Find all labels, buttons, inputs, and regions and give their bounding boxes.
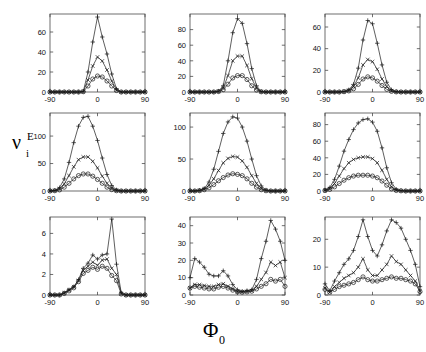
data-point-cross	[352, 271, 356, 275]
x-tick-label: 0	[235, 95, 239, 104]
subplot-r2c3: 020406080-90090	[313, 113, 425, 203]
series-circle	[188, 277, 287, 294]
series-plus	[323, 18, 422, 94]
data-point-cross	[375, 161, 379, 165]
data-point-cross	[110, 79, 114, 83]
data-point-plus	[212, 167, 216, 171]
x-axis-title-subscript: 0	[219, 333, 225, 347]
data-point-cross	[96, 55, 100, 59]
series-plus	[188, 218, 287, 293]
y-tick-label: 50	[38, 159, 46, 168]
data-point-cross	[356, 76, 360, 80]
data-point-plus	[95, 138, 99, 142]
data-point-plus	[72, 140, 76, 144]
data-point-cross	[259, 278, 263, 282]
data-point-plus	[380, 243, 384, 247]
plot-frame	[325, 113, 420, 191]
data-point-cross	[86, 78, 90, 82]
y-tick-label: 6	[42, 229, 46, 238]
data-point-plus	[361, 218, 365, 222]
data-point-plus	[337, 164, 341, 168]
data-point-plus	[361, 38, 365, 42]
plot-frame	[50, 14, 145, 92]
data-point-plus	[283, 258, 287, 262]
data-point-cross	[352, 158, 356, 162]
data-point-cross	[264, 271, 268, 275]
subplot-r1c3: 0204060-90090	[313, 14, 425, 104]
y-tick-label: 80	[178, 25, 186, 34]
data-point-cross	[385, 178, 389, 182]
x-tick-label: -90	[185, 194, 196, 203]
data-point-plus	[366, 117, 370, 121]
data-point-cross	[371, 157, 375, 161]
data-point-cross	[269, 260, 273, 264]
data-point-cross	[366, 58, 370, 62]
data-point-cross	[366, 268, 370, 272]
x-axis-title: Φ 0	[203, 318, 225, 347]
x-tick-label: -90	[185, 298, 196, 307]
series-line	[50, 266, 145, 295]
y-tick-label: 20	[178, 256, 186, 265]
data-point-plus	[81, 115, 85, 119]
data-point-cross	[250, 77, 254, 81]
data-point-cross	[105, 182, 109, 186]
series-line	[50, 57, 145, 92]
x-tick-label: 0	[95, 298, 99, 307]
data-point-plus	[404, 237, 408, 241]
x-tick-label: -90	[45, 95, 56, 104]
y-tick-label: 50	[178, 155, 186, 164]
plot-frame	[50, 217, 145, 295]
data-point-cross	[240, 159, 244, 163]
x-tick-label: 90	[141, 95, 149, 104]
series-plus	[188, 16, 287, 94]
data-point-plus	[356, 121, 360, 125]
data-point-plus	[67, 160, 71, 164]
data-point-cross	[96, 166, 100, 170]
plot-frame	[190, 113, 285, 191]
series-cross	[48, 257, 147, 297]
y-tick-label: 40	[178, 57, 186, 66]
y-tick-label: 20	[38, 68, 46, 77]
series-line	[50, 157, 145, 191]
data-point-plus	[62, 177, 66, 181]
data-point-cross	[385, 263, 389, 267]
x-tick-label: -90	[320, 95, 331, 104]
data-point-plus	[212, 274, 216, 278]
data-point-cross	[342, 167, 346, 171]
y-tick-label: 40	[38, 48, 46, 57]
y-tick-label: 10	[178, 273, 186, 282]
data-point-plus	[366, 234, 370, 238]
figure-root: 0204060-90090020406080-900900204060-9009…	[0, 0, 426, 352]
data-point-cross	[250, 174, 254, 178]
y-tick-label: 4	[42, 250, 46, 259]
series-line	[325, 119, 420, 191]
plot-frame	[190, 14, 285, 92]
data-point-cross	[337, 281, 341, 285]
series-cross	[188, 54, 287, 93]
subplot-r3c1: 0246-90090	[42, 217, 149, 307]
data-point-plus	[370, 120, 374, 124]
data-point-plus	[370, 22, 374, 26]
x-tick-label: 90	[416, 194, 424, 203]
subplot-r2c2: 050100-90090	[173, 113, 289, 203]
x-tick-label: 0	[235, 194, 239, 203]
data-point-cross	[96, 263, 100, 267]
data-point-plus	[356, 234, 360, 238]
y-tick-label: 100	[33, 132, 46, 141]
data-point-plus	[245, 139, 249, 143]
data-point-plus	[235, 116, 239, 120]
y-axis-title-superscript: E	[27, 130, 34, 142]
series-line	[50, 259, 145, 295]
y-tick-label: 80	[313, 120, 321, 129]
data-point-plus	[413, 262, 417, 266]
series-line	[190, 117, 285, 191]
x-tick-label: 0	[235, 298, 239, 307]
data-point-cross	[278, 260, 282, 264]
data-point-plus	[351, 127, 355, 131]
data-point-cross	[77, 158, 81, 162]
data-point-plus	[76, 124, 80, 128]
y-tick-label: 10	[313, 263, 321, 272]
x-tick-label: -90	[320, 298, 331, 307]
data-point-cross	[91, 260, 95, 264]
x-tick-label: 0	[370, 194, 374, 203]
